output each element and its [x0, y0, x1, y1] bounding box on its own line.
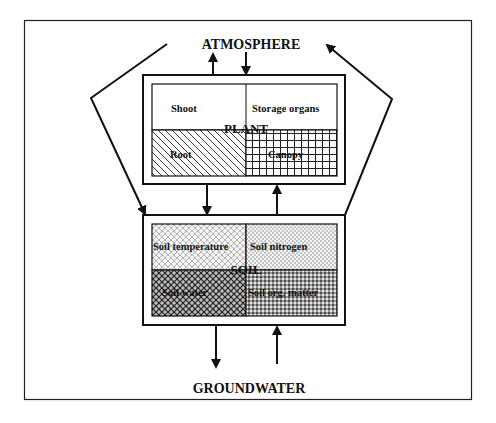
plant-title: PLANT [224, 121, 268, 136]
soil-temperature-label: Soil temperature [153, 241, 229, 252]
soil-box: Soil temperature Soil nitrogen Soil wate… [143, 215, 345, 325]
canopy-label: Canopy [268, 149, 304, 160]
atmosphere-label: ATMOSPHERE [202, 37, 301, 52]
root-label: Root [170, 149, 192, 160]
soil-water-label: Soil water [162, 287, 208, 298]
storage-organs-label: Storage organs [252, 103, 319, 114]
groundwater-label: GROUNDWATER [193, 381, 306, 396]
soil-title: SOIL [230, 262, 261, 277]
soil-nitrogen-label: Soil nitrogen [250, 241, 307, 252]
soil-org-matter-label: Soil org. matter [248, 287, 319, 298]
root-cell [152, 130, 246, 176]
shoot-label: Shoot [171, 103, 197, 114]
plant-soil-diagram: ATMOSPHERE GROUNDWATER Shoot Storage org… [0, 0, 496, 423]
plant-box: Shoot Storage organs Root Canopy PLANT [143, 75, 345, 184]
